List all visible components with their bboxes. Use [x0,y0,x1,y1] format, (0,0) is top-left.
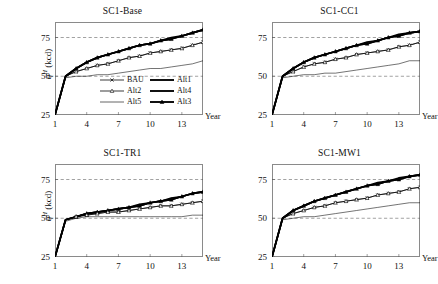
legend-item: Alt5 [99,97,149,107]
y-axis-tick: 50 [258,71,267,81]
legend: BAUAlt1Alt2Alt4Alt5Alt3 [99,74,199,108]
y-axis-tick: 75 [258,33,267,43]
y-axis-tick: 75 [41,175,50,185]
x-axis-tick: 13 [394,261,403,271]
legend-label: BAU [127,76,144,84]
x-axis-tick: 13 [177,261,186,271]
legend-label: Alt2 [127,87,141,95]
y-axis-tick: 25 [41,110,50,120]
plot-area: qH (kcd) Year BAUAlt1Alt2Alt4Alt5Alt3 25… [55,22,203,115]
legend-item: Alt4 [149,86,199,96]
x-axis-tick: 10 [363,261,372,271]
panel-title: SC1-TR1 [0,148,217,158]
plot-canvas [272,22,420,115]
y-axis-label: qH (kcd) [41,176,53,236]
legend-swatch-alt4 [149,86,175,96]
x-axis-tick: 7 [333,119,338,129]
x-axis-tick: 13 [394,119,403,129]
panel-sc1-mw1: SC1-MW1 Year 2550751471013 [217,142,434,284]
y-axis-unit: (kcd) [43,49,53,70]
x-axis-tick: 7 [116,119,121,129]
plot-area: qH (kcd) Year 2550751471013 [55,164,203,257]
y-axis-tick: 50 [41,71,50,81]
legend-swatch-alt5 [99,97,125,107]
panel-title: SC1-CC1 [217,6,434,16]
x-axis-tick: 4 [301,261,306,271]
x-axis-tick: 13 [177,119,186,129]
plot-area: Year 2550751471013 [272,22,420,115]
legend-label: Alt3 [177,98,191,106]
x-axis-tick: 10 [363,119,372,129]
x-axis-label: Year [422,253,438,263]
panel-sc1-cc1: SC1-CC1 Year 2550751471013 [217,0,434,142]
plot-canvas [272,164,420,257]
legend-label: Alt5 [127,98,141,106]
plot-area: Year 2550751471013 [272,164,420,257]
x-axis-tick: 1 [53,119,58,129]
x-axis-tick: 1 [270,119,275,129]
y-axis-tick: 50 [41,213,50,223]
legend-item: Alt1 [149,75,199,85]
x-axis-tick: 10 [146,261,155,271]
x-axis-tick: 4 [301,119,306,129]
legend-item: BAU [99,75,149,85]
panel-title: SC1-Base [0,6,217,16]
x-axis-tick: 1 [270,261,275,271]
y-axis-tick: 25 [41,252,50,262]
legend-swatch-alt2 [99,86,125,96]
y-axis-label: qH (kcd) [41,34,53,94]
x-axis-label: Year [422,111,438,121]
y-axis-tick: 50 [258,213,267,223]
legend-label: Alt1 [177,76,191,84]
legend-swatch-bau [99,75,125,85]
legend-item: Alt3 [149,97,199,107]
legend-label: Alt4 [177,87,191,95]
x-axis-tick: 10 [146,119,155,129]
panel-title: SC1-MW1 [217,148,434,158]
y-axis-tick: 25 [258,110,267,120]
panel-sc1-base: SC1-Base qH (kcd) Year BAUAlt1Alt2Alt4Al… [0,0,217,142]
x-axis-tick: 4 [84,119,89,129]
x-axis-tick: 4 [84,261,89,271]
x-axis-tick: 1 [53,261,58,271]
y-axis-unit: (kcd) [43,191,53,212]
legend-swatch-alt3 [149,97,175,107]
legend-swatch-alt1 [149,75,175,85]
panel-sc1-tr1: SC1-TR1 qH (kcd) Year 2550751471013 [0,142,217,284]
x-axis-tick: 7 [333,261,338,271]
plot-canvas [55,164,203,257]
y-axis-tick: 25 [258,252,267,262]
y-axis-tick: 75 [41,33,50,43]
legend-item: Alt2 [99,86,149,96]
y-axis-tick: 75 [258,175,267,185]
x-axis-tick: 7 [116,261,121,271]
